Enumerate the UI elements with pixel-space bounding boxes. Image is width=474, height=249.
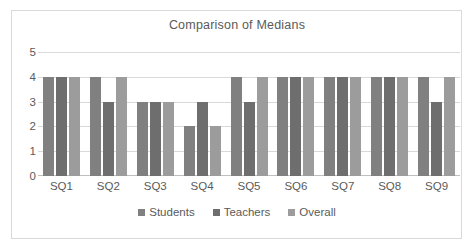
bar[interactable] [337, 77, 348, 176]
chart-container: Comparison of Medians 5 4 3 2 1 0 SQ1SQ2… [0, 0, 474, 249]
x-axis-tick-label: SQ9 [413, 180, 460, 192]
bar[interactable] [150, 102, 161, 176]
bar[interactable] [244, 102, 255, 176]
bar[interactable] [350, 77, 361, 176]
bar[interactable] [103, 102, 114, 176]
legend-label: Overall [299, 206, 335, 218]
x-axis-tick-label: SQ8 [366, 180, 413, 192]
legend-label: Teachers [224, 206, 271, 218]
chart-title: Comparison of Medians [0, 18, 474, 32]
bar-group [38, 52, 85, 176]
bar-group [226, 52, 273, 176]
bar-group [413, 52, 460, 176]
legend-label: Students [149, 206, 194, 218]
bar[interactable] [397, 77, 408, 176]
bar-group [272, 52, 319, 176]
bar-group [179, 52, 226, 176]
chart-legend: StudentsTeachersOverall [0, 206, 474, 218]
bar-group [319, 52, 366, 176]
bar[interactable] [231, 77, 242, 176]
x-axis-tick-label: SQ6 [272, 180, 319, 192]
bar-group [85, 52, 132, 176]
legend-item[interactable]: Teachers [213, 206, 271, 218]
x-axis-tick-label: SQ4 [179, 180, 226, 192]
y-axis-tick: 3 [30, 96, 36, 108]
y-axis-tick: 4 [30, 71, 36, 83]
bar[interactable] [56, 77, 67, 176]
bar[interactable] [418, 77, 429, 176]
bar[interactable] [43, 77, 54, 176]
x-axis-labels: SQ1SQ2SQ3SQ4SQ5SQ6SQ7SQ8SQ9 [38, 180, 460, 192]
y-axis-tick: 5 [30, 46, 36, 58]
y-axis-tick: 1 [30, 145, 36, 157]
bar[interactable] [210, 126, 221, 176]
x-axis-tick-label: SQ7 [319, 180, 366, 192]
y-axis-tick: 0 [30, 170, 36, 182]
bar[interactable] [290, 77, 301, 176]
x-axis-tick-label: SQ2 [85, 180, 132, 192]
legend-item[interactable]: Students [138, 206, 194, 218]
bar[interactable] [371, 77, 382, 176]
x-axis-tick-label: SQ1 [38, 180, 85, 192]
bar[interactable] [197, 102, 208, 176]
y-axis-tick: 2 [30, 120, 36, 132]
y-axis-tick-labels: 5 4 3 2 1 0 [18, 52, 36, 176]
bar[interactable] [384, 77, 395, 176]
plot-area [38, 52, 460, 176]
bar[interactable] [184, 126, 195, 176]
x-axis-tick-label: SQ3 [132, 180, 179, 192]
bar[interactable] [431, 102, 442, 176]
bar[interactable] [444, 77, 455, 176]
x-axis-tick-label: SQ5 [226, 180, 273, 192]
legend-swatch-icon [138, 209, 145, 216]
legend-swatch-icon [288, 209, 295, 216]
bar[interactable] [303, 77, 314, 176]
bar[interactable] [163, 102, 174, 176]
bar[interactable] [90, 77, 101, 176]
bar[interactable] [324, 77, 335, 176]
bar[interactable] [69, 77, 80, 176]
bar[interactable] [257, 77, 268, 176]
bar[interactable] [277, 77, 288, 176]
bar-groups [38, 52, 460, 176]
bar-group [366, 52, 413, 176]
legend-swatch-icon [213, 209, 220, 216]
bar[interactable] [116, 77, 127, 176]
bar[interactable] [137, 102, 148, 176]
bar-group [132, 52, 179, 176]
legend-item[interactable]: Overall [288, 206, 335, 218]
